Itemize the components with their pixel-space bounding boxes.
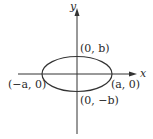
- y-axis-label: y: [69, 0, 77, 13]
- x-axis-arrow-icon: [129, 72, 137, 77]
- point-label-top: (0, b): [80, 42, 110, 55]
- point-label-right: (a, 0): [111, 78, 140, 91]
- point-label-bottom: (0, −b): [80, 94, 119, 107]
- point-label-left: (−a, 0): [8, 78, 46, 91]
- ellipse-diagram: y x (0, b) (0, −b) (−a, 0) (a, 0): [0, 0, 153, 139]
- x-axis-label: x: [140, 67, 147, 80]
